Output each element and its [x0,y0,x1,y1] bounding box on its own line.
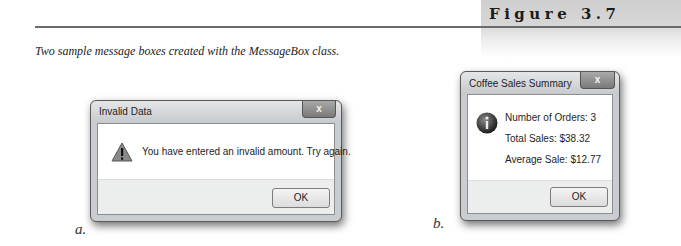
warning-icon [111,142,133,162]
information-icon [476,112,498,134]
dialog-client-area: Number of Orders: 3 Total Sales: $38.32 … [467,94,613,214]
dialog-title: Coffee Sales Summary [469,78,572,89]
figure-caption: Two sample message boxes created with th… [35,44,339,59]
figure-label: Figure 3.7 [489,5,621,23]
sub-label-b: b. [433,215,444,232]
ok-button[interactable]: OK [550,187,608,207]
close-icon: x [595,74,601,85]
close-icon: x [316,103,322,114]
invalid-data-dialog: Invalid Data x You have entered an inval… [90,100,342,222]
dialog-footer: OK [98,179,334,214]
close-button[interactable]: x [580,72,615,89]
orders-count-text: Number of Orders: 3 [505,112,596,123]
message-text: You have entered an invalid amount. Try … [142,146,351,157]
dialog-footer: OK [468,180,612,213]
average-sale-text: Average Sale: $12.77 [505,154,601,165]
ok-button[interactable]: OK [272,188,330,208]
sub-label-a: a. [75,221,86,238]
close-button[interactable]: x [302,101,336,118]
coffee-sales-summary-dialog: Coffee Sales Summary x Number of Orders:… [460,71,620,221]
total-sales-text: Total Sales: $38.32 [505,133,590,144]
header-rule [35,26,681,28]
dialog-client-area: You have entered an invalid amount. Try … [97,123,335,215]
dialog-title: Invalid Data [99,106,152,117]
